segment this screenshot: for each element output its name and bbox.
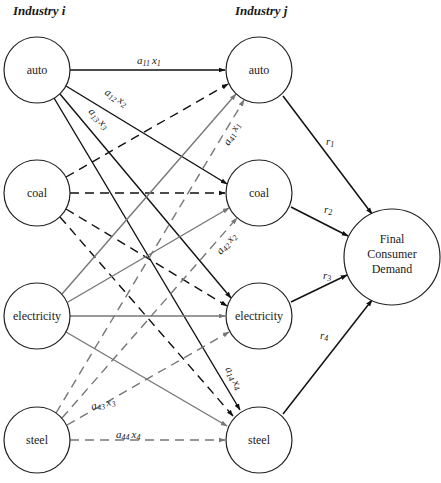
node-label-line: Consumer (367, 247, 416, 261)
label-a42x2: a42x2 (213, 230, 239, 258)
edge-coal-final (291, 207, 348, 236)
label-a11x1: a11x1 (137, 54, 161, 68)
edges-from-steel (56, 100, 244, 440)
edges-from-coal (60, 84, 233, 416)
label-r1: r1 (326, 135, 334, 149)
node-electricity-i: electricity (4, 283, 70, 349)
node-auto-j: auto (226, 37, 292, 103)
label-a12x2: a12x2 (102, 85, 130, 110)
edge-steel-final (283, 300, 372, 414)
node-label: steel (248, 433, 271, 447)
node-label: auto (249, 63, 270, 77)
edge-electricity-auto (62, 94, 236, 294)
node-label: steel (26, 433, 49, 447)
label-a41x1: a41x1 (220, 120, 244, 148)
label-r4: r4 (320, 329, 328, 343)
node-label: coal (249, 186, 270, 200)
edge-steel-auto (56, 100, 244, 413)
edges-from-electricity (62, 94, 236, 426)
label-a43x3: a43x3 (90, 394, 117, 413)
label-r3: r3 (323, 269, 331, 283)
node-label: coal (27, 186, 48, 200)
edge-steel-coal (62, 218, 237, 418)
node-label-line: Demand (372, 262, 413, 276)
node-final-consumer-demand: Final Consumer Demand (344, 209, 440, 305)
node-steel-i: steel (4, 407, 70, 473)
node-label-line: Final (380, 232, 405, 246)
node-label: electricity (235, 309, 283, 323)
node-label: electricity (13, 309, 61, 323)
label-r2: r2 (324, 203, 332, 217)
edge-electricity-final (291, 275, 347, 302)
node-auto-i: auto (4, 37, 70, 103)
input-output-flow-diagram: auto coal electricity steel auto coal el… (0, 0, 441, 483)
edge-auto-steel (54, 98, 240, 410)
edge-auto-coal (66, 86, 227, 184)
node-label: auto (27, 63, 48, 77)
node-steel-j: steel (226, 407, 292, 473)
node-electricity-j: electricity (226, 283, 292, 349)
edge-auto-final (283, 96, 372, 214)
node-coal-j: coal (226, 160, 292, 226)
label-a44x4: a44x4 (116, 428, 140, 442)
label-a14x4: a14x4 (222, 364, 246, 392)
node-coal-i: coal (4, 160, 70, 226)
